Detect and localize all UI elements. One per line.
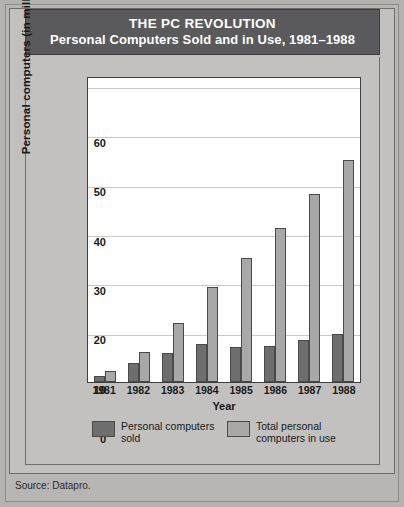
bar xyxy=(162,353,173,382)
legend-item-sold: Personal computers sold xyxy=(92,420,227,456)
x-tick-label: 1985 xyxy=(224,384,258,400)
bar-group xyxy=(264,78,286,382)
chart-title: THE PC REVOLUTION xyxy=(129,16,276,31)
title-banner: THE PC REVOLUTION Personal Computers Sol… xyxy=(25,9,380,55)
bar-group xyxy=(128,78,150,382)
legend-label-use-line1: Total personal xyxy=(256,420,321,432)
x-axis-title: Year xyxy=(87,400,361,412)
x-tick-label: 1981 xyxy=(87,384,121,400)
legend-swatch-use xyxy=(227,421,250,437)
bar xyxy=(105,371,116,382)
x-tick-label: 1983 xyxy=(156,384,190,400)
bar-group xyxy=(162,78,184,382)
chart-page: THE PC REVOLUTION Personal Computers Sol… xyxy=(0,0,404,507)
bar-group xyxy=(298,78,320,382)
bar xyxy=(332,334,343,382)
x-axis-tick-labels: 19811982198319841985198619871988 xyxy=(87,384,361,400)
legend-label-sold-line1: Personal computers xyxy=(121,420,214,432)
chart-subtitle: Personal Computers Sold and in Use, 1981… xyxy=(50,32,355,48)
legend-swatch-sold xyxy=(92,421,115,437)
legend-item-use: Total personal computers in use xyxy=(227,420,362,456)
bar xyxy=(207,287,218,382)
source-note: Source: Datapro. xyxy=(15,480,91,491)
bar-group xyxy=(196,78,218,382)
chart-card: Personal computers (in millions) 0102030… xyxy=(25,57,380,465)
bar-group xyxy=(230,78,252,382)
legend-label-sold: Personal computers sold xyxy=(121,420,214,444)
bar xyxy=(196,344,207,382)
bar xyxy=(230,347,241,382)
bar xyxy=(173,323,184,382)
x-tick-label: 1988 xyxy=(327,384,361,400)
legend-label-use-line2: computers in use xyxy=(256,432,336,444)
y-axis-title: Personal computers (in millions) xyxy=(20,0,32,162)
x-tick-label: 1986 xyxy=(258,384,292,400)
bar xyxy=(275,228,286,382)
bar-groups xyxy=(88,78,360,382)
bar-group xyxy=(332,78,354,382)
bar xyxy=(298,340,309,382)
bar xyxy=(343,160,354,382)
bar xyxy=(309,194,320,382)
bar xyxy=(128,363,139,382)
bar xyxy=(241,258,252,382)
chart-legend: Personal computers sold Total personal c… xyxy=(92,420,362,456)
bar xyxy=(264,346,275,382)
legend-label-sold-line2: sold xyxy=(121,432,140,444)
x-tick-label: 1984 xyxy=(190,384,224,400)
plot-area xyxy=(87,77,361,383)
x-tick-label: 1982 xyxy=(121,384,155,400)
legend-label-use: Total personal computers in use xyxy=(256,420,336,444)
bar-group xyxy=(94,78,116,382)
bar xyxy=(94,376,105,382)
x-tick-label: 1987 xyxy=(293,384,327,400)
bar xyxy=(139,352,150,382)
